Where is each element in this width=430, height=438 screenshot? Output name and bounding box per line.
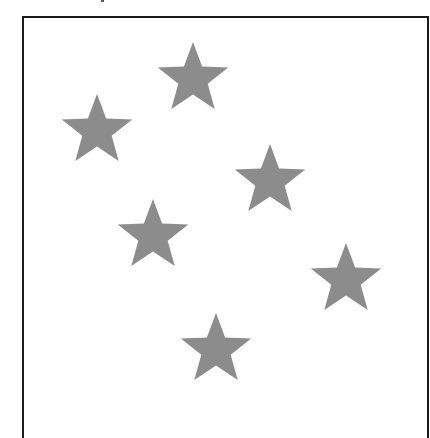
star-5-icon [311, 243, 381, 310]
star-3-icon [235, 144, 305, 211]
star-4-icon [118, 199, 188, 266]
star-2-icon [62, 94, 132, 161]
star-layer [62, 42, 381, 380]
star-1-icon [158, 42, 228, 109]
star-6-icon [181, 313, 251, 380]
